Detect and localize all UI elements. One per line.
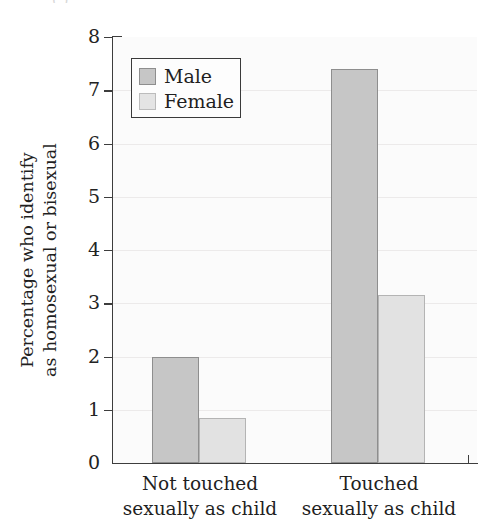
figure-canvas: ( ) 012345678 Male Female Percentage who… xyxy=(0,0,493,530)
y-axis-tick-label: 1 xyxy=(70,400,100,419)
y-axis-tick xyxy=(104,197,113,198)
y-axis-tick-label: 5 xyxy=(70,187,100,206)
y-axis-tick xyxy=(104,37,113,38)
y-axis-tick-label: 4 xyxy=(70,240,100,259)
y-axis-tick xyxy=(104,357,113,358)
bar-female-group-1 xyxy=(378,295,425,463)
y-axis-tick-label: 0 xyxy=(70,453,100,472)
y-axis-tick xyxy=(104,250,113,251)
legend-swatch-female-icon xyxy=(139,93,156,110)
gridline xyxy=(113,197,477,198)
legend-item-male: Male xyxy=(139,64,240,89)
bar-male-group-1 xyxy=(331,69,378,463)
bar-female-group-0 xyxy=(199,418,246,463)
gridline xyxy=(113,250,477,251)
y-axis-tick-label: 7 xyxy=(70,80,100,99)
gridline xyxy=(113,144,477,145)
y-axis-tick xyxy=(104,144,113,145)
y-axis-title-line1: Percentage who identify xyxy=(16,95,39,425)
legend-label-male: Male xyxy=(164,67,212,86)
y-axis-tick-label: 2 xyxy=(70,347,100,366)
bar-male-group-0 xyxy=(152,357,199,464)
y-axis-title: Percentage who identify as homosexual or… xyxy=(16,95,62,425)
y-axis-tick-label: 3 xyxy=(70,293,100,312)
chart-legend: Male Female xyxy=(131,58,241,118)
y-axis-tick xyxy=(104,303,113,304)
x-axis-right-cap xyxy=(468,455,469,464)
x-category-0-line2: sexually as child xyxy=(110,496,290,521)
x-category-0-line1: Not touched xyxy=(110,471,290,496)
y-axis-tick-label: 6 xyxy=(70,134,100,153)
y-axis-tick xyxy=(104,410,113,411)
y-axis-top-cap xyxy=(112,36,122,37)
x-axis-spine xyxy=(112,463,478,464)
x-category-1-line2: sexually as child xyxy=(289,496,469,521)
legend-label-female: Female xyxy=(164,92,234,111)
cropped-caption-remnant: ( ) xyxy=(52,0,392,3)
legend-item-female: Female xyxy=(139,89,240,114)
x-category-label-touched: Touched sexually as child xyxy=(289,471,469,521)
x-category-1-line1: Touched xyxy=(289,471,469,496)
y-axis-tick-label: 8 xyxy=(70,27,100,46)
x-category-label-not-touched: Not touched sexually as child xyxy=(110,471,290,521)
y-axis-tick xyxy=(104,90,113,91)
legend-swatch-male-icon xyxy=(139,68,156,85)
y-axis-title-line2: as homosexual or bisexual xyxy=(39,95,62,425)
